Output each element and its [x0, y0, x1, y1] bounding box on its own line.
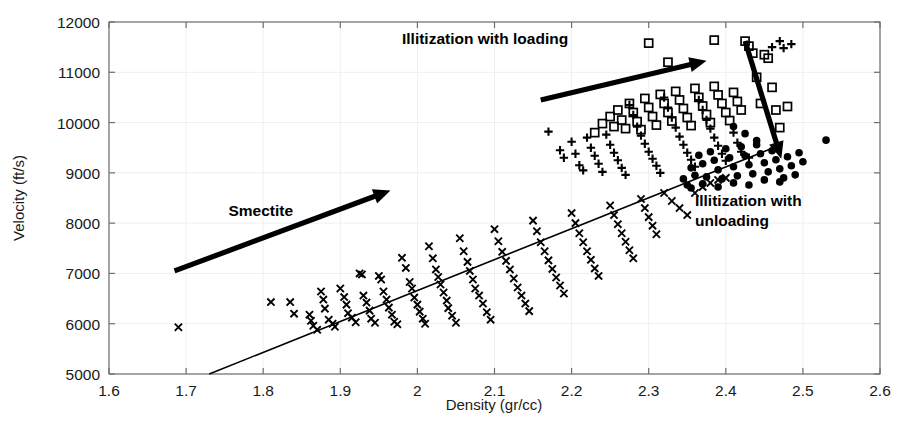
data-markers — [175, 36, 830, 333]
x-tick-label: 1.8 — [252, 382, 274, 399]
y-tick-label: 7000 — [66, 265, 101, 282]
arrow-shaft — [745, 41, 778, 148]
x-axis-label: Density (gr/cc) — [446, 396, 543, 413]
x-tick-label: 2.2 — [561, 382, 583, 399]
figure-container: SmectiteIllitization with loadingIllitiz… — [0, 0, 909, 447]
y-tick-label: 8000 — [66, 215, 101, 232]
series-illitization-unloading-filled — [680, 123, 830, 192]
y-tick-label: 11000 — [58, 64, 100, 81]
x-tick-label: 2.4 — [715, 382, 737, 399]
arrow-shaft — [541, 63, 696, 100]
arrow-head — [372, 189, 391, 203]
x-tick-label: 1.7 — [175, 382, 197, 399]
annotation-illitization-with-loading: Illitization with loading — [402, 30, 707, 100]
scatter-plot: SmectiteIllitization with loadingIllitiz… — [0, 0, 909, 447]
y-axis-label: Velocity (ft/s) — [10, 155, 27, 241]
y-tick-label: 9000 — [66, 165, 101, 182]
x-tick-label: 2.6 — [869, 382, 891, 399]
annotation-text: unloading — [695, 212, 769, 229]
annotation-text: Illitization with loading — [402, 30, 568, 47]
y-tick-label: 10000 — [57, 115, 100, 132]
y-tick-label: 6000 — [66, 316, 101, 333]
x-tick-label: 2.5 — [792, 382, 814, 399]
arrow-head — [688, 57, 706, 72]
y-tick-label: 5000 — [66, 366, 101, 383]
annotation-smectite: Smectite — [175, 189, 391, 271]
x-tick-label: 1.6 — [98, 382, 120, 399]
x-tick-label: 2 — [413, 382, 422, 399]
caption-fragment — [0, 432, 909, 447]
annotation-text: Illitization with — [695, 192, 802, 209]
x-tick-label: 1.9 — [330, 382, 352, 399]
y-tick-label: 12000 — [57, 14, 100, 31]
x-tick-label: 2.3 — [638, 382, 660, 399]
annotation-text: Smectite — [229, 202, 294, 219]
